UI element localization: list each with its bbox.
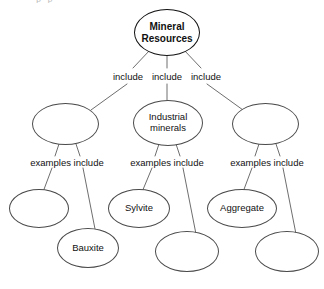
node-category-right[interactable] (232, 103, 299, 145)
edge-industrial-split-b (176, 144, 180, 156)
edge-root-to-include-right (184, 50, 201, 68)
node-aggregate-label: Aggregate (217, 203, 267, 214)
node-mineral-resources-label: Mineral Resources (138, 21, 195, 43)
node-aggregate[interactable]: Aggregate (207, 189, 277, 228)
edge-category-left-split-a (55, 144, 59, 156)
node-industrial-minerals[interactable]: Industrial minerals (133, 100, 203, 146)
edge-label-include-right: include (191, 71, 221, 82)
edge-examples-right-to-example-6 (283, 168, 296, 234)
node-example-6[interactable] (255, 231, 319, 272)
edge-label-include-middle: include (152, 71, 182, 82)
node-example-1[interactable] (9, 189, 69, 228)
edge-include-left-to-category-left (91, 84, 127, 110)
node-category-left[interactable] (32, 103, 99, 145)
edge-label-examples-left: examples include (30, 157, 103, 168)
edge-examples-middle-to-example-4 (183, 168, 196, 234)
node-bauxite[interactable]: Bauxite (57, 228, 119, 268)
edge-category-right-split-a (255, 144, 259, 156)
node-sylvite[interactable]: Sylvite (108, 189, 170, 228)
node-bauxite-label: Bauxite (69, 243, 107, 254)
clipped-text-artifact: p p (36, 0, 156, 3)
edge-industrial-split-a (155, 144, 159, 156)
edge-examples-left-to-example-2 (83, 168, 96, 234)
edge-category-right-split-b (276, 144, 280, 156)
edge-root-to-include-left (133, 50, 150, 68)
node-industrial-minerals-label: Industrial minerals (146, 112, 191, 133)
edge-category-left-split-b (76, 144, 80, 156)
node-mineral-resources[interactable]: Mineral Resources (134, 9, 200, 56)
node-sylvite-label: Sylvite (122, 203, 156, 214)
edge-label-include-left: include (113, 71, 143, 82)
edge-include-right-to-category-right (207, 84, 243, 110)
edge-label-examples-right: examples include (230, 157, 303, 168)
edge-label-examples-middle: examples include (130, 157, 203, 168)
node-example-4[interactable] (155, 231, 219, 272)
concept-map-canvas: p p Mineral (0, 0, 324, 289)
